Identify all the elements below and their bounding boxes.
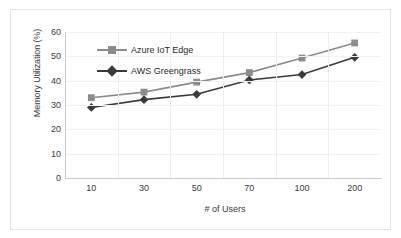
x-axis-title: # of Users [65,204,385,214]
x-axis-tick-label: 10 [86,183,96,193]
y-axis-tick-label: 10 [15,149,61,159]
x-axis-line [65,178,382,179]
vertical-gridline [328,32,329,178]
y-axis-tick-label: 20 [15,124,61,134]
data-point-marker [140,95,149,104]
legend-label: AWS Greengrass [131,66,201,76]
x-axis-tick-label: 200 [347,183,362,193]
y-axis-tick-label: 0 [15,173,61,183]
vertical-gridline [223,32,224,178]
legend-label: Azure IoT Edge [131,45,193,55]
data-point-marker [298,70,307,79]
data-point-marker [351,40,358,47]
y-axis-tick-label: 60 [15,27,61,37]
y-axis-line [65,32,66,179]
chart-legend: Azure IoT EdgeAWS Greengrass [97,42,201,84]
x-axis-tick-label: 70 [244,183,254,193]
legend-square-marker-icon [97,44,127,56]
chart-figure: Memory Utilization (%) # of Users 010203… [10,9,391,230]
data-point-marker [141,89,148,96]
vertical-gridline [276,32,277,178]
data-point-marker [88,94,95,101]
y-axis-tick-label: 40 [15,76,61,86]
legend-item[interactable]: AWS Greengrass [97,63,201,79]
data-point-marker [192,90,201,99]
y-axis-ticks: 0102030405060 [11,10,61,231]
y-axis-tick-label: 50 [15,51,61,61]
legend-diamond-marker-icon [97,65,127,77]
x-axis-tick-label: 30 [139,183,149,193]
y-axis-tick-label: 30 [15,100,61,110]
legend-item[interactable]: Azure IoT Edge [97,42,201,58]
x-axis-tick-label: 100 [294,183,309,193]
x-axis-tick-label: 50 [192,183,202,193]
data-point-marker [246,69,253,76]
